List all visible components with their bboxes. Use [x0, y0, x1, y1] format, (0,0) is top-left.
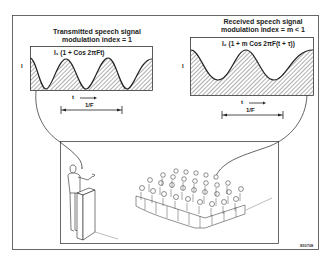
received-title-line2: modulation index = m < 1	[206, 26, 320, 34]
received-time-label: t	[241, 99, 243, 105]
received-y-axis-label: I	[182, 63, 184, 69]
transmitted-formula: I₁ (1 + Cos 2πFt)	[54, 49, 104, 56]
received-period-label: 1/F	[246, 107, 255, 113]
transmitted-period-label: 1/F	[85, 102, 94, 108]
transmitted-time-label: t	[72, 94, 74, 100]
received-formula: I₂ (1 + m Cos 2πF(t + τ))	[222, 40, 295, 47]
received-waveform-fill	[191, 50, 313, 95]
podium	[77, 188, 95, 240]
received-title: Received speech signal modulation index …	[206, 18, 320, 34]
audience	[136, 169, 272, 228]
transmitted-y-axis-label: I	[21, 63, 23, 69]
listener-callout-line	[215, 95, 307, 178]
speaker-callout-line	[36, 91, 82, 167]
transmitted-title-line2: modulation index = 1	[40, 36, 154, 44]
received-title-line1: Received speech signal	[206, 18, 320, 26]
transmitted-title-line1: Transmitted speech signal	[40, 28, 154, 36]
figure-id: 850708	[300, 243, 313, 248]
transmitted-title: Transmitted speech signal modulation ind…	[40, 28, 154, 44]
